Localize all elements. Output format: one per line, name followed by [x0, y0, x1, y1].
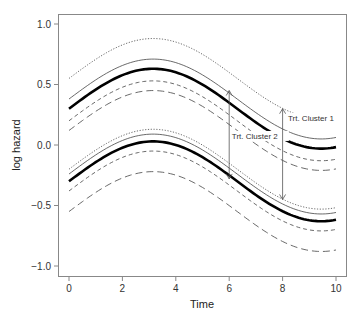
annotations: Trt. Cluster 2Trt. Cluster 1: [226, 91, 345, 200]
y-tick-label: 0.0: [37, 140, 51, 151]
y-axis: 1.00.50.0−0.5−1.0: [31, 19, 58, 272]
curve-line: [69, 134, 336, 214]
x-tick-label: 6: [226, 283, 232, 294]
x-tick-label: 8: [280, 283, 286, 294]
x-axis-label: Time: [190, 298, 214, 310]
y-tick-label: 1.0: [37, 19, 51, 30]
y-tick-label: 0.5: [37, 79, 51, 90]
chart: 1.00.50.0−0.5−1.0 0246810 Trt. Cluster 2…: [0, 0, 362, 323]
x-tick-label: 4: [173, 283, 179, 294]
curves: [69, 39, 336, 252]
x-tick-label: 10: [330, 283, 342, 294]
curve-line: [69, 69, 336, 149]
annotation-label: Trt. Cluster 1: [288, 114, 334, 123]
curve-line: [69, 172, 336, 252]
x-tick-label: 0: [66, 283, 72, 294]
x-axis: 0246810: [66, 277, 342, 295]
curve-line: [69, 129, 336, 209]
curve-line: [69, 151, 336, 231]
curve-line: [69, 59, 336, 139]
y-axis-label: log hazard: [10, 119, 22, 170]
y-tick-label: −0.5: [31, 200, 51, 211]
annotation-label: Trt. Cluster 2: [232, 132, 278, 141]
y-tick-label: −1.0: [31, 261, 51, 272]
x-tick-label: 2: [120, 283, 126, 294]
